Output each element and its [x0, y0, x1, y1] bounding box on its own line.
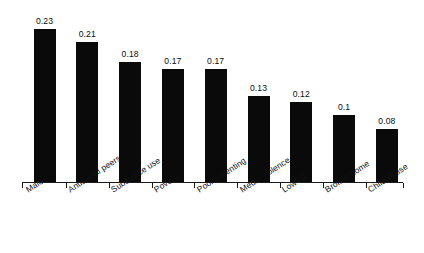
axis-tick	[152, 183, 153, 188]
bar	[76, 42, 98, 182]
x-axis-category-labels: MaleAntisocial peersSubstance usePoverty…	[0, 186, 424, 253]
plot-area: 0.230.210.180.170.170.130.120.10.08	[0, 0, 424, 182]
bar-group: 0.13	[248, 0, 270, 182]
axis-tick	[403, 183, 404, 188]
bar-value-label: 0.08	[378, 116, 395, 126]
bar-chart: 0.230.210.180.170.170.130.120.10.08 Male…	[0, 0, 424, 253]
bar-group: 0.1	[333, 0, 355, 182]
bar-value-label: 0.21	[79, 29, 96, 39]
axis-tick	[66, 183, 67, 188]
bar-group: 0.18	[119, 0, 141, 182]
bar	[290, 102, 312, 182]
axis-tick	[109, 183, 110, 188]
bar-value-label: 0.17	[207, 56, 224, 66]
bar	[205, 69, 227, 182]
axis-tick	[280, 183, 281, 188]
bar	[162, 69, 184, 182]
bar-group: 0.08	[376, 0, 398, 182]
axis-tick	[366, 183, 367, 188]
bar-value-label: 0.18	[122, 49, 139, 59]
bar	[34, 29, 56, 182]
bar	[119, 62, 141, 182]
bar-value-label: 0.13	[250, 83, 267, 93]
bar-group: 0.17	[205, 0, 227, 182]
bar-value-label: 0.23	[36, 16, 53, 26]
bar-value-label: 0.17	[164, 56, 181, 66]
axis-tick	[194, 183, 195, 188]
bar-group: 0.23	[34, 0, 56, 182]
bar-group: 0.12	[290, 0, 312, 182]
bar-group: 0.17	[162, 0, 184, 182]
axis-tick	[22, 183, 23, 188]
bar-value-label: 0.1	[338, 102, 350, 112]
axis-tick	[237, 183, 238, 188]
axis-tick	[323, 183, 324, 188]
bar-value-label: 0.12	[293, 89, 310, 99]
bar-group: 0.21	[76, 0, 98, 182]
